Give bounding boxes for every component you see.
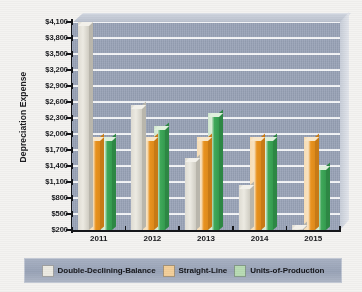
y-tick-label: $2,600	[8, 97, 68, 106]
bar-side-face	[326, 162, 330, 230]
y-tick-mark	[66, 133, 73, 135]
legend-item-double-declining-balance[interactable]: Double-Declining-Balance	[42, 265, 156, 277]
bar-front-face	[78, 22, 89, 230]
legend-label: Straight-Line	[179, 266, 228, 275]
bar-2015-straight-line	[304, 137, 315, 230]
bar-side-face	[89, 22, 93, 230]
bar-side-face	[100, 133, 104, 230]
y-tick-mark	[66, 69, 73, 71]
x-tick-label-2015: 2015	[286, 234, 340, 243]
y-tick-label: $3,200	[8, 65, 68, 74]
y-tick-mark	[66, 85, 73, 87]
legend-swatch-icon	[42, 265, 54, 277]
x-tick-mark	[125, 226, 127, 232]
bar-side-face	[219, 109, 223, 230]
y-tick-label: $2,900	[8, 81, 68, 90]
x-tick-mark	[286, 226, 288, 232]
x-tick-label-2012: 2012	[125, 234, 179, 243]
y-tick-mark	[66, 165, 73, 167]
bar-side-face	[273, 133, 277, 230]
bar-2015-double-declining-balance	[292, 225, 303, 230]
y-tick-label: $2,300	[8, 113, 68, 122]
legend-item-straight-line[interactable]: Straight-Line	[163, 265, 228, 277]
bar-front-face	[239, 185, 250, 230]
chart-legend: Double-Declining-BalanceStraight-LineUni…	[24, 258, 342, 283]
y-tick-label: $3,800	[8, 33, 68, 42]
x-tick-mark	[339, 226, 341, 232]
legend-swatch-icon	[234, 265, 246, 277]
x-tick-mark	[232, 226, 234, 232]
bar-2012-double-declining-balance	[131, 105, 142, 230]
bar-front-face	[131, 105, 142, 230]
bar-side-face	[208, 133, 212, 230]
y-tick-mark	[66, 149, 73, 151]
bar-2014-double-declining-balance	[239, 185, 250, 230]
y-tick-label: $1,100	[8, 177, 68, 186]
y-tick-mark	[66, 37, 73, 39]
bar-side-face	[142, 101, 146, 230]
bar-group-2012	[131, 22, 171, 230]
bar-2011-double-declining-balance	[78, 22, 89, 230]
legend-swatch-icon	[163, 265, 175, 277]
bar-side-face	[261, 133, 265, 230]
y-tick-label: $1,400	[8, 161, 68, 170]
y-tick-mark	[66, 117, 73, 119]
y-tick-mark	[66, 53, 73, 55]
bar-group-2015	[292, 22, 332, 230]
bar-group-2014	[239, 22, 279, 230]
bar-side-face	[196, 154, 200, 230]
depreciation-expense-bar-chart: Depreciation Expense $4,100$3,800$3,500$…	[0, 0, 362, 292]
plot-right-face-3d	[340, 12, 349, 230]
y-tick-label: $3,500	[8, 49, 68, 58]
y-tick-label: $2,000	[8, 129, 68, 138]
bar-front-face	[304, 137, 315, 230]
bar-front-face	[185, 158, 196, 230]
x-tick-label-2014: 2014	[233, 234, 287, 243]
y-tick-label: $4,100	[8, 17, 68, 26]
y-tick-mark	[66, 213, 73, 215]
x-tick-label-2013: 2013	[179, 234, 233, 243]
bar-group-2013	[185, 22, 225, 230]
y-tick-mark	[66, 181, 73, 183]
bar-side-face	[112, 133, 116, 230]
x-axis-line	[71, 230, 341, 232]
bar-2013-double-declining-balance	[185, 158, 196, 230]
y-tick-mark	[66, 21, 73, 23]
y-tick-label: $500	[8, 209, 68, 218]
legend-label: Double-Declining-Balance	[58, 266, 156, 275]
y-tick-label: $800	[8, 193, 68, 202]
x-tick-mark	[178, 226, 180, 232]
legend-item-units-of-production[interactable]: Units-of-Production	[234, 265, 324, 277]
legend-label: Units-of-Production	[250, 266, 324, 275]
x-tick-label-2011: 2011	[72, 234, 126, 243]
bar-side-face	[154, 133, 158, 230]
y-tick-label: $1,700	[8, 145, 68, 154]
plot-area	[72, 22, 340, 230]
bar-group-2011	[78, 22, 118, 230]
y-tick-label: $200	[8, 225, 68, 234]
y-tick-mark	[66, 101, 73, 103]
y-tick-mark	[66, 229, 73, 231]
bar-side-face	[315, 133, 319, 230]
y-tick-mark	[66, 197, 73, 199]
plot-wrap	[72, 22, 340, 230]
bar-side-face	[165, 122, 169, 230]
